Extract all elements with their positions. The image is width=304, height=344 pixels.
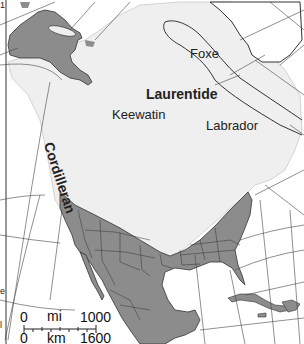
edge-mark-low: l <box>0 320 2 330</box>
label-keewatin: Keewatin <box>112 107 165 122</box>
scale-mi-max: 1000 <box>80 309 111 325</box>
scale-mi-zero: 0 <box>20 309 28 325</box>
label-foxe: Foxe <box>190 46 219 61</box>
scale-km-zero: 0 <box>20 330 28 344</box>
scale-km-max: 1600 <box>80 330 111 344</box>
ice-sheet-map <box>0 0 304 344</box>
scale-km-unit: km <box>47 330 66 344</box>
label-laurentide: Laurentide <box>146 86 218 102</box>
label-labrador: Labrador <box>206 118 258 133</box>
scale-mi-unit: mi <box>47 308 62 324</box>
edge-mark-top: 1 <box>0 0 5 10</box>
edge-mark-mid: e <box>0 286 5 296</box>
jamaica <box>258 313 266 317</box>
